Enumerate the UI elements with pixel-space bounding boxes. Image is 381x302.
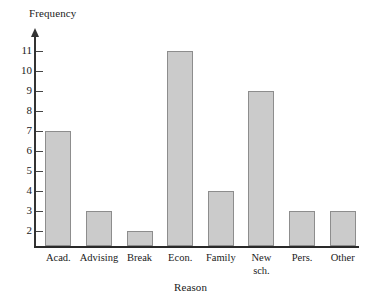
y-axis-tick: 4 bbox=[36, 191, 43, 192]
y-axis-line bbox=[34, 36, 36, 248]
bar bbox=[86, 211, 112, 246]
y-axis-tick: 3 bbox=[36, 211, 43, 212]
x-axis-category-label: Family bbox=[201, 252, 242, 265]
y-axis-tick-label: 8 bbox=[27, 104, 33, 117]
y-axis-tick: 7 bbox=[36, 131, 43, 132]
y-axis-tick-label: 4 bbox=[27, 184, 33, 197]
bar bbox=[208, 191, 234, 246]
x-axis-category-label: Econ. bbox=[160, 252, 201, 265]
y-axis-tick: 8 bbox=[36, 111, 43, 112]
x-axis-category-label: Other bbox=[322, 252, 363, 265]
x-axis-category-label: Acad. bbox=[38, 252, 79, 265]
bar bbox=[167, 51, 193, 246]
bar bbox=[127, 231, 153, 246]
bar bbox=[289, 211, 315, 246]
y-axis-tick: 9 bbox=[36, 91, 43, 92]
x-axis-category-label: Break bbox=[119, 252, 160, 265]
x-axis-category-label: Pers. bbox=[282, 252, 323, 265]
y-axis-tick-label: 9 bbox=[27, 84, 33, 97]
y-axis-tick-label: 11 bbox=[21, 44, 32, 57]
y-axis-tick-label: 2 bbox=[27, 224, 33, 237]
bar-chart: Frequency 234567891011 Acad.AdvisingBrea… bbox=[0, 0, 381, 302]
y-axis-tick: 2 bbox=[36, 231, 43, 232]
x-axis-line bbox=[34, 246, 359, 248]
x-axis-title: Reason bbox=[0, 281, 381, 293]
y-axis-tick-label: 6 bbox=[27, 144, 33, 157]
y-axis-tick-label: 3 bbox=[27, 204, 33, 217]
y-axis-tick: 11 bbox=[36, 51, 43, 52]
y-axis-tick-label: 7 bbox=[27, 124, 33, 137]
x-axis-category-label: New sch. bbox=[241, 252, 282, 277]
y-axis-tick: 5 bbox=[36, 171, 43, 172]
y-axis-tick: 6 bbox=[36, 151, 43, 152]
bar bbox=[45, 131, 71, 246]
bar bbox=[248, 91, 274, 246]
x-axis-category-label: Advising bbox=[79, 252, 120, 265]
y-axis-tick: 10 bbox=[36, 71, 43, 72]
bar bbox=[330, 211, 356, 246]
y-axis-tick-label: 5 bbox=[27, 164, 33, 177]
y-axis-title: Frequency bbox=[29, 7, 76, 19]
y-axis-arrow-icon bbox=[31, 28, 39, 37]
plot-area: 234567891011 Acad.AdvisingBreakEcon.Fami… bbox=[34, 32, 359, 248]
y-axis-tick-label: 10 bbox=[21, 64, 32, 77]
